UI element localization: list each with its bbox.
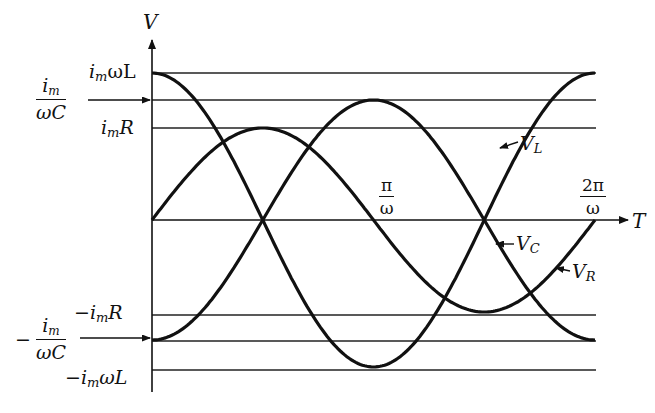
label-neg-C-num-sub: m xyxy=(48,324,59,338)
label-pos-L-sub: m xyxy=(95,69,107,84)
curve-label-v-r: VR xyxy=(572,262,596,283)
label-pos-C-den: ωC xyxy=(36,100,66,122)
curve-label-v-c: VC xyxy=(516,234,540,255)
label-neg-R-sub: m xyxy=(96,310,108,325)
curve-label-v-l-main: V xyxy=(520,132,534,154)
label-pos-L: imωL xyxy=(89,62,136,83)
label-neg-R-main: −i xyxy=(74,301,96,323)
label-neg-C-prefix: − xyxy=(15,330,31,349)
label-pos-R-rest: R xyxy=(119,116,133,138)
curve-label-v-r-sub: R xyxy=(586,269,596,284)
t-axis-label: T xyxy=(632,211,645,231)
tick-pi-over-omega: π ω xyxy=(379,177,394,217)
curve-label-v-r-main: V xyxy=(572,260,586,282)
v-l-label-arrow xyxy=(500,142,518,148)
v-axis-label: V xyxy=(143,12,157,32)
tick-pi-num: π xyxy=(379,177,394,197)
label-neg-L-rest: ωL xyxy=(99,366,127,388)
label-neg-L-main: −i xyxy=(65,366,87,388)
label-neg-R-rest: R xyxy=(108,301,122,323)
label-neg-C-den: ωC xyxy=(36,340,66,362)
v-r-label-arrow xyxy=(556,268,570,271)
label-neg-C: im ωC xyxy=(36,316,66,362)
label-pos-L-rest: ωL xyxy=(107,60,135,82)
label-pos-C: im ωC xyxy=(36,76,66,122)
tick-2pi-over-omega: 2π ω xyxy=(580,177,606,217)
label-pos-C-num-sub: m xyxy=(48,84,59,98)
label-neg-R: −imR xyxy=(74,303,123,324)
curve-label-v-c-sub: C xyxy=(530,241,540,256)
tick-2pi-num: 2π xyxy=(580,177,606,197)
voltage-phase-diagram: V T imωL im ωC imR −imR − im ωC −imωL π … xyxy=(0,0,655,413)
label-pos-R-sub: m xyxy=(107,125,119,140)
label-neg-L-sub: m xyxy=(87,375,99,390)
label-neg-L: −imωL xyxy=(65,368,127,389)
curve-label-v-l-sub: L xyxy=(534,141,543,156)
curve-label-v-c-main: V xyxy=(516,232,530,254)
tick-2pi-den: ω xyxy=(580,197,606,217)
label-pos-R: imR xyxy=(101,118,134,139)
tick-pi-den: ω xyxy=(379,197,394,217)
curve-label-v-l: VL xyxy=(520,134,542,155)
